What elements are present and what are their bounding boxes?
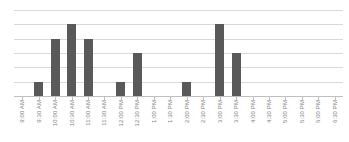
x-axis-label: 5:00 PM xyxy=(282,100,289,123)
x-axis-label-cell: 4:00 PM xyxy=(244,100,260,142)
x-axis-label-cell: 2:30 PM xyxy=(195,100,211,142)
x-axis-label: 4:00 PM xyxy=(249,100,256,123)
bar-slot xyxy=(146,10,162,96)
plot-area xyxy=(14,10,343,96)
x-axis-label: 4:30 PM xyxy=(266,100,273,123)
bars-container xyxy=(14,10,343,96)
x-axis-label-cell: 3:00 PM xyxy=(211,100,227,142)
x-axis-label: 11:00 AM xyxy=(85,100,92,126)
bar-slot xyxy=(277,10,293,96)
x-axis-label: 12:30 PM xyxy=(134,100,141,126)
x-axis-label-cell: 10:30 AM xyxy=(63,100,79,142)
x-axis-label: 6:30 PM xyxy=(331,100,338,123)
bar-slot xyxy=(80,10,96,96)
bar-slot xyxy=(179,10,195,96)
x-axis-label: 5:30 PM xyxy=(298,100,305,123)
x-axis-label: 1:30 PM xyxy=(167,100,174,123)
x-axis-label-cell: 1:00 PM xyxy=(146,100,162,142)
bar-slot xyxy=(244,10,260,96)
bar-slot xyxy=(211,10,227,96)
x-axis-label: 6:00 PM xyxy=(315,100,322,123)
bar[interactable] xyxy=(232,53,241,96)
bar-slot xyxy=(294,10,310,96)
bar[interactable] xyxy=(51,39,60,96)
x-axis-label: 3:30 PM xyxy=(233,100,240,123)
bar-slot xyxy=(113,10,129,96)
x-axis-label: 12:00 PM xyxy=(117,100,124,126)
x-axis-label: 11:30 AM xyxy=(101,100,108,126)
bar[interactable] xyxy=(133,53,142,96)
x-axis-label: 9:30 AM xyxy=(35,100,42,123)
x-axis-label-cell: 1:30 PM xyxy=(162,100,178,142)
x-axis-label-cell: 12:30 PM xyxy=(129,100,145,142)
x-axis-label-cell: 5:30 PM xyxy=(294,100,310,142)
bar-slot xyxy=(14,10,30,96)
bar[interactable] xyxy=(67,24,76,96)
bar[interactable] xyxy=(84,39,93,96)
bar-slot xyxy=(261,10,277,96)
bar-slot xyxy=(228,10,244,96)
bar-chart: 9:00 AM9:30 AM10:00 AM10:30 AM11:00 AM11… xyxy=(0,0,349,142)
x-axis-label-cell: 5:00 PM xyxy=(277,100,293,142)
x-axis-label: 2:00 PM xyxy=(183,100,190,123)
x-axis-label-cell: 6:00 PM xyxy=(310,100,326,142)
bar[interactable] xyxy=(215,24,224,96)
bar[interactable] xyxy=(116,82,125,96)
x-axis-label-cell: 3:30 PM xyxy=(228,100,244,142)
bar-slot xyxy=(63,10,79,96)
bar-slot xyxy=(129,10,145,96)
x-axis-labels: 9:00 AM9:30 AM10:00 AM10:30 AM11:00 AM11… xyxy=(14,100,343,142)
x-axis-label: 10:00 AM xyxy=(52,100,59,126)
x-axis-label: 9:00 AM xyxy=(19,100,26,123)
x-axis-label: 2:30 PM xyxy=(200,100,207,123)
x-axis-label-cell: 6:30 PM xyxy=(327,100,343,142)
bar-slot xyxy=(310,10,326,96)
x-axis-label-cell: 2:00 PM xyxy=(179,100,195,142)
bar-slot xyxy=(96,10,112,96)
bar-slot xyxy=(47,10,63,96)
bar[interactable] xyxy=(34,82,43,96)
x-axis-label-cell: 4:30 PM xyxy=(261,100,277,142)
x-axis-label-cell: 9:30 AM xyxy=(30,100,46,142)
bar-slot xyxy=(162,10,178,96)
x-axis-label: 3:00 PM xyxy=(216,100,223,123)
x-axis-label-cell: 9:00 AM xyxy=(14,100,30,142)
x-axis-label-cell: 11:00 AM xyxy=(80,100,96,142)
x-axis-label-cell: 10:00 AM xyxy=(47,100,63,142)
bar-slot xyxy=(327,10,343,96)
x-axis-label: 10:30 AM xyxy=(68,100,75,126)
bar-slot xyxy=(30,10,46,96)
x-axis-label-cell: 12:00 PM xyxy=(113,100,129,142)
bar[interactable] xyxy=(182,82,191,96)
x-axis-label: 1:00 PM xyxy=(150,100,157,123)
x-axis-label-cell: 11:30 AM xyxy=(96,100,112,142)
bar-slot xyxy=(195,10,211,96)
